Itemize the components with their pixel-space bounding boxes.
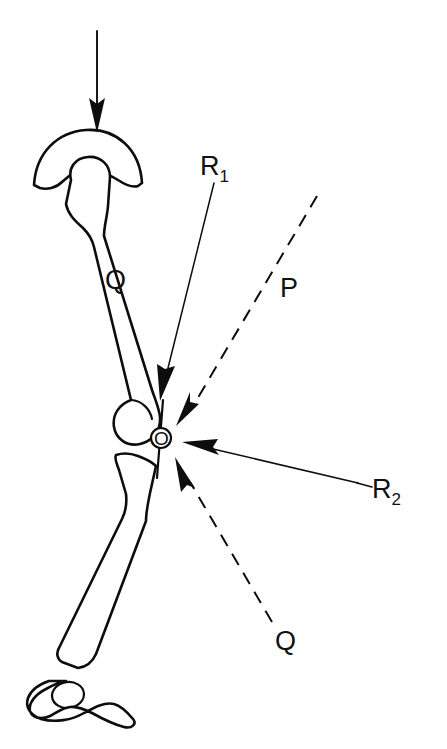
vector-R2 <box>182 439 358 483</box>
label-O: O <box>154 428 169 449</box>
label-R2: R2 <box>372 474 401 509</box>
label-R1: R1 <box>200 151 229 186</box>
leader-line-R2 <box>357 483 372 487</box>
femur-shaft <box>66 157 160 445</box>
vector-P <box>176 196 317 426</box>
vector-body-load <box>89 31 105 133</box>
vector-R1 <box>157 183 214 401</box>
vector-Q-lower <box>175 457 272 622</box>
figure-root: R1 Q P R2 Q O <box>0 0 447 749</box>
label-Q-femur: Q <box>105 265 126 295</box>
tibia-shaft <box>57 454 156 668</box>
force-diagram-svg: R1 Q P R2 Q O <box>0 0 447 749</box>
label-Q-lower: Q <box>275 626 296 656</box>
label-P: P <box>280 273 298 303</box>
